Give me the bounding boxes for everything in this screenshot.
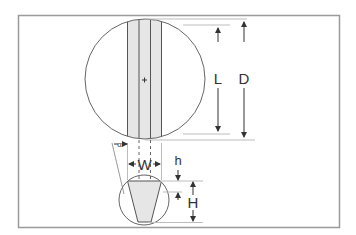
dimension-W: W	[129, 156, 160, 173]
dimension-D: D	[239, 22, 250, 137]
tip-view	[119, 175, 169, 225]
label-alpha: α	[117, 140, 122, 149]
angle-alpha: α	[112, 140, 127, 194]
label-W: W	[137, 156, 152, 173]
label-H: H	[188, 194, 199, 211]
dimension-L: L	[214, 28, 222, 131]
diagram-canvas: L D α W h	[0, 0, 356, 235]
label-h: h	[174, 153, 181, 168]
label-L: L	[214, 70, 222, 87]
frame-border	[19, 16, 340, 228]
label-D: D	[239, 70, 250, 87]
magnified-view	[85, 10, 205, 150]
dimension-h: h	[174, 153, 181, 200]
dimension-H: H	[188, 182, 199, 221]
